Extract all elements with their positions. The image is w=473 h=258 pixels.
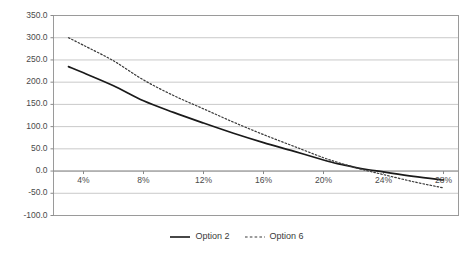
plot-svg: [0, 0, 473, 258]
y-axis-tick-label: 100.0: [26, 122, 47, 131]
plot-background: [54, 16, 459, 216]
x-axis-tick-label: 16%: [244, 176, 284, 185]
y-axis-tick-label: 350.0: [26, 11, 47, 20]
y-axis-tick-label: 250.0: [26, 55, 47, 64]
line-chart: 350.0300.0250.0200.0150.0100.050.00.0-50…: [0, 0, 473, 258]
x-axis-tick-label: 28%: [424, 176, 464, 185]
y-axis-tick-label: -50.0: [28, 188, 47, 197]
y-axis-tick-label: 0.0: [36, 166, 48, 175]
legend-swatch-dotted-icon: [244, 233, 266, 241]
y-axis-tick-label: 150.0: [26, 99, 47, 108]
legend-label-option-2: Option 2: [195, 232, 229, 241]
legend-item-option-6: Option 6: [244, 232, 304, 241]
y-axis-tick-label: -100.0: [23, 211, 47, 220]
legend-label-option-6: Option 6: [270, 232, 304, 241]
x-axis-tick-label: 24%: [364, 176, 404, 185]
x-axis-tick-label: 12%: [184, 176, 224, 185]
legend-swatch-solid-icon: [169, 233, 191, 241]
x-axis-tick-label: 4%: [64, 176, 104, 185]
x-axis-tick-label: 8%: [124, 176, 164, 185]
y-axis-tick-label: 200.0: [26, 77, 47, 86]
chart-legend: Option 2 Option 6: [0, 232, 473, 241]
legend-item-option-2: Option 2: [169, 232, 229, 241]
x-axis-tick-label: 20%: [304, 176, 344, 185]
y-axis-tick-label: 50.0: [31, 144, 48, 153]
y-axis-tick-label: 300.0: [26, 33, 47, 42]
